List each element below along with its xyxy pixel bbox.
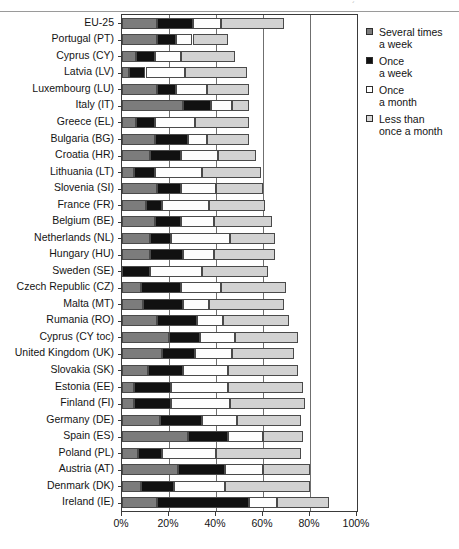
bar-segment[interactable] [174,481,226,492]
bar-segment[interactable] [138,448,162,459]
bar-segment[interactable] [122,18,157,29]
bar-segment[interactable] [155,51,181,62]
bar-row[interactable] [122,464,357,475]
bar-segment[interactable] [218,150,256,161]
legend-entry[interactable]: Oncea month [366,84,458,108]
bar-segment[interactable] [188,134,207,145]
bar-segment[interactable] [232,100,248,111]
bar-segment[interactable] [122,365,148,376]
bar-segment[interactable] [216,183,263,194]
bar-row[interactable] [122,332,357,343]
bar-segment[interactable] [228,382,303,393]
bar-segment[interactable] [181,282,221,293]
bar-row[interactable] [122,150,357,161]
bar-row[interactable] [122,481,357,492]
bar-segment[interactable] [216,448,301,459]
bar-segment[interactable] [178,464,225,475]
bar-row[interactable] [122,183,357,194]
bar-row[interactable] [122,415,357,426]
bar-segment[interactable] [134,167,155,178]
bar-segment[interactable] [207,134,249,145]
bar-segment[interactable] [237,415,300,426]
bar-segment[interactable] [122,67,129,78]
bar-row[interactable] [122,51,357,62]
bar-segment[interactable] [122,266,150,277]
bar-segment[interactable] [122,167,134,178]
bar-segment[interactable] [141,282,181,293]
bar-segment[interactable] [150,249,183,260]
bar-segment[interactable] [263,464,310,475]
bar-row[interactable] [122,34,357,45]
bar-segment[interactable] [230,233,275,244]
bar-segment[interactable] [155,134,188,145]
bar-row[interactable] [122,134,357,145]
bar-segment[interactable] [122,100,183,111]
bar-segment[interactable] [150,233,171,244]
bar-segment[interactable] [183,249,214,260]
bar-segment[interactable] [155,117,195,128]
bar-segment[interactable] [146,200,162,211]
bar-segment[interactable] [263,431,303,442]
bar-segment[interactable] [221,282,287,293]
legend-entry[interactable]: Oncea week [366,55,458,79]
bar-segment[interactable] [134,382,172,393]
bar-segment[interactable] [157,18,192,29]
bar-segment[interactable] [122,183,157,194]
bar-segment[interactable] [122,299,143,310]
bar-row[interactable] [122,365,357,376]
bar-segment[interactable] [122,84,157,95]
bar-segment[interactable] [193,18,221,29]
bar-row[interactable] [122,200,357,211]
bar-segment[interactable] [134,398,172,409]
bar-segment[interactable] [122,249,150,260]
bar-row[interactable] [122,233,357,244]
bar-segment[interactable] [155,167,202,178]
bar-segment[interactable] [228,431,263,442]
bar-segment[interactable] [157,183,181,194]
bar-segment[interactable] [122,448,138,459]
bar-segment[interactable] [122,415,160,426]
bar-segment[interactable] [230,398,305,409]
bar-row[interactable] [122,282,357,293]
bar-segment[interactable] [183,100,211,111]
bar-segment[interactable] [122,150,150,161]
bar-segment[interactable] [214,216,273,227]
bar-segment[interactable] [202,266,268,277]
bar-segment[interactable] [183,365,228,376]
bar-segment[interactable] [143,299,183,310]
bar-segment[interactable] [122,315,157,326]
bar-segment[interactable] [122,348,162,359]
legend-entry[interactable]: Less thanonce a month [366,113,458,137]
bar-segment[interactable] [181,51,235,62]
bar-segment[interactable] [122,134,155,145]
bar-segment[interactable] [171,233,230,244]
bar-segment[interactable] [157,34,176,45]
bar-segment[interactable] [141,481,174,492]
bar-segment[interactable] [122,497,157,508]
bar-segment[interactable] [209,200,265,211]
bar-segment[interactable] [122,464,178,475]
bar-segment[interactable] [195,117,249,128]
bar-segment[interactable] [160,415,202,426]
bar-segment[interactable] [171,382,227,393]
bar-row[interactable] [122,84,357,95]
bar-segment[interactable] [162,200,209,211]
bar-segment[interactable] [181,216,214,227]
bar-segment[interactable] [157,84,176,95]
bar-segment[interactable] [148,365,183,376]
bar-segment[interactable] [146,67,186,78]
bar-segment[interactable] [169,332,200,343]
bar-segment[interactable] [200,332,235,343]
bar-segment[interactable] [277,497,329,508]
bar-segment[interactable] [181,183,216,194]
bar-row[interactable] [122,431,357,442]
bar-segment[interactable] [122,282,141,293]
bar-segment[interactable] [122,200,146,211]
bar-segment[interactable] [122,233,150,244]
bar-segment[interactable] [221,18,284,29]
bar-segment[interactable] [176,84,207,95]
bar-segment[interactable] [122,398,134,409]
bar-row[interactable] [122,117,357,128]
bar-segment[interactable] [211,100,232,111]
bar-segment[interactable] [150,266,202,277]
